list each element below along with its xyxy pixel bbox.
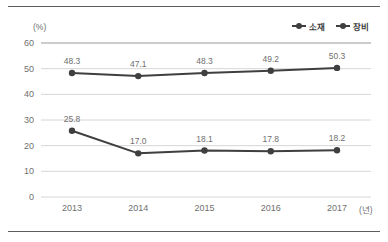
y-axis-tick-label: 0 (8, 192, 34, 202)
data-point-marker[interactable] (268, 148, 274, 154)
data-point-label: 47.1 (118, 59, 158, 69)
data-point-marker[interactable] (135, 150, 141, 156)
legend-label: 장비 (353, 20, 369, 32)
legend-marker-icon (336, 22, 350, 30)
legend-item-sojae[interactable]: 소재 (292, 20, 325, 32)
y-axis-tick-label: 40 (8, 89, 34, 99)
y-axis-tick-label: 20 (8, 141, 34, 151)
data-point-marker[interactable] (69, 128, 75, 134)
data-point-label: 18.1 (185, 134, 225, 144)
x-axis-tick-label: 2016 (246, 203, 296, 213)
data-point-marker[interactable] (201, 147, 207, 153)
x-axis-tick-label: 2015 (180, 203, 230, 213)
data-point-label: 48.3 (185, 56, 225, 66)
data-point-marker[interactable] (334, 65, 340, 71)
y-axis-tick-label: 50 (8, 64, 34, 74)
data-point-label: 49.2 (251, 54, 291, 64)
data-point-marker[interactable] (69, 70, 75, 76)
x-axis-tick-label: 2017 (312, 203, 362, 213)
data-point-marker[interactable] (135, 73, 141, 79)
chart-figure: (%) (년) 0102030405060 201320142015201620… (0, 0, 388, 242)
legend-item-jangbi[interactable]: 장비 (336, 20, 369, 32)
data-point-label: 25.8 (52, 114, 92, 124)
data-point-label: 48.3 (52, 56, 92, 66)
data-point-label: 17.8 (251, 134, 291, 144)
y-axis-unit-label: (%) (33, 22, 46, 32)
legend-marker-icon (292, 22, 306, 30)
x-axis-tick-label: 2014 (113, 203, 163, 213)
y-axis-tick-label: 60 (8, 38, 34, 48)
data-point-marker[interactable] (201, 70, 207, 76)
data-point-label: 17.0 (118, 136, 158, 146)
data-point-label: 18.2 (317, 133, 357, 143)
x-axis-tick-label: 2013 (47, 203, 97, 213)
data-point-label: 50.3 (317, 51, 357, 61)
legend-label: 소재 (309, 20, 325, 32)
y-axis-tick-label: 10 (8, 166, 34, 176)
data-point-marker[interactable] (334, 147, 340, 153)
y-axis-tick-label: 30 (8, 115, 34, 125)
data-point-marker[interactable] (268, 68, 274, 74)
chart-legend: 소재 장비 (292, 20, 369, 32)
